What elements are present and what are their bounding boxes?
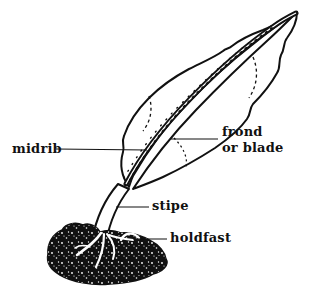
holdfast-label: holdfast xyxy=(170,230,231,246)
frond-label: frond or blade xyxy=(222,124,283,156)
holdfast-stipple-texture xyxy=(48,223,167,284)
seaweed-anatomy-diagram: midrib frond or blade stipe holdfast xyxy=(0,0,314,293)
frond-label-line2: or blade xyxy=(222,140,283,156)
midrib-label: midrib xyxy=(12,141,62,157)
stipe-label: stipe xyxy=(152,198,189,214)
frond-label-line1: frond xyxy=(222,124,283,140)
